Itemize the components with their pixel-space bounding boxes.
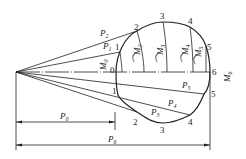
label-m4: ⌒M4 [180,45,191,65]
label-m5: ⌒M5 [193,47,204,67]
label-p1: P1 [102,41,112,52]
pt-upper-3: 3 [160,11,165,21]
arrow-p0-left [16,121,22,124]
label-p3: P3 [150,107,160,118]
ray-p4 [16,72,190,115]
pt-lower-2: 2 [133,117,138,127]
pt-lower-4: 4 [188,117,193,127]
arrow-p6-right [204,144,210,147]
label-p6: P6 [107,134,117,145]
label-p5: P5 [181,80,191,91]
pt-lower-1: 1 [112,86,117,96]
pt-upper-6: 6 [212,67,217,77]
moment-line-1 [120,52,122,72]
label-p2: P2 [99,28,109,39]
pt-upper-4: 4 [188,16,193,26]
label-p0: P0 [59,111,69,122]
ray-p5 [16,72,204,94]
arrow-p0-right [109,121,115,124]
label-m2: ⌒M2 [132,45,143,65]
pt-upper-5: 5 [207,42,212,52]
pt-upper-2: 2 [134,22,139,32]
label-m6: M6 [222,72,233,84]
pt-lower-3: 3 [160,125,165,135]
label-m0: M0 [98,60,109,72]
label-m3: ⌒M3 [155,45,166,65]
profile-curve [116,22,210,123]
pt-upper-0: 0 [110,65,115,75]
ray-p3 [16,72,137,112]
pt-lower-5: 5 [211,89,216,99]
arrow-p6-left [16,144,22,147]
pt-upper-1: 1 [115,42,120,52]
cam-force-diagram: 0 1 2 3 4 5 6 1 2 3 4 5 P2 P1 P5 P4 P3 M… [0,0,246,159]
label-p4: P4 [167,98,177,109]
